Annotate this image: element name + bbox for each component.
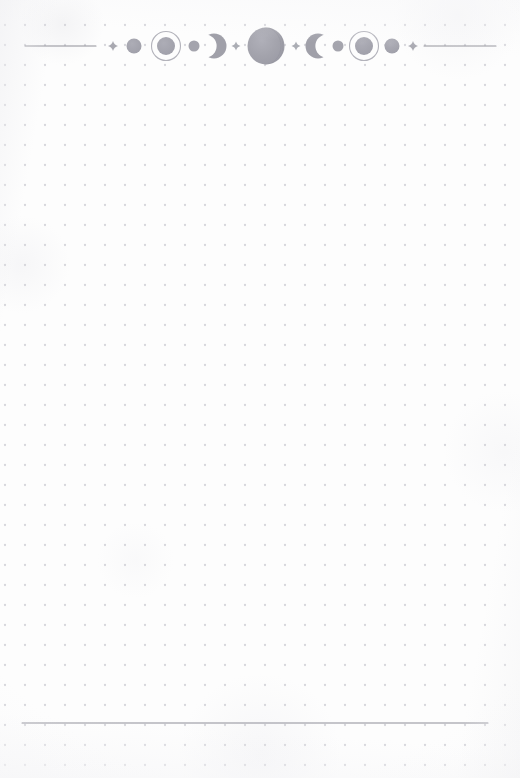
notepaper-page [0, 0, 520, 778]
circle-small-right-icon [385, 39, 400, 54]
dot-after-crescent-icon [333, 41, 344, 52]
writing-area[interactable] [22, 96, 498, 696]
ringed-circle-right-body-icon [355, 37, 373, 55]
footer-divider-rule [0, 696, 520, 752]
celestial-lunar-phase-ornament [0, 0, 520, 96]
crescent-waning-icon [0, 0, 520, 96]
